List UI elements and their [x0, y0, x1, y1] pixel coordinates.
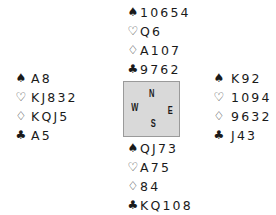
east-clubs-cards: J43	[231, 126, 257, 145]
south-diamonds-cards: 84	[140, 177, 160, 196]
north-spades-cards: 10654	[140, 3, 191, 22]
compass-south-label: S	[151, 118, 156, 129]
spade-icon: ♠	[15, 69, 27, 88]
heart-icon: ♡	[127, 22, 139, 41]
diamond-icon: ♢	[213, 107, 225, 126]
compass-west-label: W	[131, 102, 138, 113]
north-clubs-cards: 9762	[140, 60, 181, 79]
diamond-icon: ♢	[127, 177, 139, 196]
heart-icon: ♡	[213, 88, 225, 107]
west-clubs-cards: A5	[31, 126, 52, 145]
spade-icon: ♠	[213, 69, 225, 88]
diamond-icon: ♢	[127, 41, 139, 60]
south-spades-cards: QJ73	[140, 139, 178, 158]
club-icon: ♣	[127, 196, 139, 215]
diamond-icon: ♢	[15, 107, 27, 126]
west-spades-cards: A8	[31, 69, 52, 88]
west-diamonds-cards: KQJ5	[31, 107, 69, 126]
east-spades-cards: K92	[231, 69, 262, 88]
compass-north-label: N	[149, 88, 154, 99]
club-icon: ♣	[213, 126, 225, 145]
spade-icon: ♠	[127, 139, 139, 158]
east-diamonds-cards: 9632	[231, 107, 272, 126]
compass-box: N W E S	[123, 81, 180, 137]
club-icon: ♣	[127, 60, 139, 79]
east-hearts-cards: 1094	[231, 88, 272, 107]
heart-icon: ♡	[127, 158, 139, 177]
club-icon: ♣	[15, 126, 27, 145]
south-hearts-cards: A75	[140, 158, 171, 177]
spade-icon: ♠	[127, 3, 139, 22]
north-hearts-cards: Q6	[140, 22, 162, 41]
west-hearts-cards: KJ832	[31, 88, 78, 107]
heart-icon: ♡	[15, 88, 27, 107]
compass-east-label: E	[168, 105, 173, 116]
south-clubs-cards: KQ108	[140, 196, 193, 215]
north-diamonds-cards: A107	[140, 41, 181, 60]
